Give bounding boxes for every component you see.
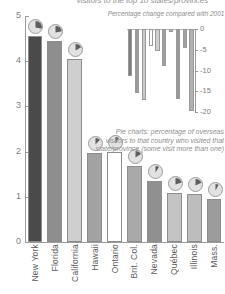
inset-bar[interactable]: [149, 29, 153, 46]
inset-bar[interactable]: [176, 29, 180, 99]
main-bar[interactable]: [107, 152, 122, 242]
inset-bar[interactable]: [189, 29, 193, 111]
inset-y-tick: [195, 71, 198, 72]
main-bar[interactable]: [87, 153, 102, 242]
main-x-label: Florida: [50, 244, 60, 271]
figure-title: visitors to the top 10 states/provinces: [60, 0, 225, 6]
inset-bar[interactable]: [162, 29, 166, 66]
inset-chart: Percentage change compared with 2001 0-5…: [127, 10, 225, 115]
main-bar[interactable]: [127, 166, 142, 242]
pie-chart-icon: [168, 176, 183, 191]
main-x-axis-line: [25, 242, 224, 243]
inset-bar[interactable]: [155, 29, 159, 51]
main-bar[interactable]: [187, 194, 202, 242]
main-bar-item[interactable]: [67, 16, 82, 242]
inset-y-tick: [195, 112, 198, 113]
main-bar-item[interactable]: [47, 16, 62, 242]
main-x-label: Hawaii: [90, 244, 100, 271]
inset-bar[interactable]: [183, 29, 187, 48]
inset-y-tick: [195, 50, 198, 51]
main-bar-item[interactable]: [28, 16, 43, 242]
main-bar[interactable]: [207, 199, 222, 242]
main-bar[interactable]: [67, 59, 82, 242]
main-bar[interactable]: [47, 41, 62, 242]
pie-chart-icon: [68, 42, 83, 57]
inset-y-tick-label: 0: [200, 24, 204, 33]
pie-caption: Pie charts: percentage of overseas visit…: [94, 128, 224, 154]
pie-chart-icon: [208, 182, 223, 197]
main-bar[interactable]: [28, 36, 43, 242]
pie-chart-icon: [148, 164, 163, 179]
inset-y-tick-label: -20: [200, 107, 211, 116]
main-y-tick-label: 1: [2, 191, 21, 201]
figure-root: visitors to the top 10 states/provinces …: [0, 0, 225, 294]
inset-bar-group: [127, 29, 195, 112]
inset-title: Percentage change compared with 2001: [107, 10, 225, 17]
main-x-label: Ontario: [110, 244, 120, 273]
main-x-label: Mass.: [209, 244, 219, 268]
main-y-tick-label: 3: [2, 100, 21, 110]
main-x-label: California: [70, 244, 80, 282]
main-x-label: Québec: [169, 244, 179, 275]
main-bar[interactable]: [167, 193, 182, 242]
main-y-tick-label: 0: [2, 236, 21, 246]
inset-bar[interactable]: [142, 29, 146, 100]
inset-bar[interactable]: [128, 29, 132, 76]
main-y-tick-label: 5: [2, 10, 21, 20]
pie-chart-icon: [48, 24, 63, 39]
inset-y-tick: [195, 91, 198, 92]
inset-bar[interactable]: [135, 29, 139, 93]
main-bar[interactable]: [147, 181, 162, 242]
main-y-tick: [25, 242, 29, 243]
main-x-label-group: New YorkFloridaCaliforniaHawaiiOntarioBr…: [25, 244, 224, 294]
inset-y-tick-label: -15: [200, 86, 211, 95]
main-x-label: Nevada: [149, 244, 159, 275]
inset-y-tick-label: -10: [200, 66, 211, 75]
inset-bar[interactable]: [169, 29, 173, 32]
inset-y-tick-label: -5: [200, 45, 207, 54]
main-x-label: New York: [30, 244, 40, 282]
main-x-label: Illinois: [189, 244, 199, 269]
pie-chart-icon: [188, 177, 203, 192]
inset-y-tick: [195, 29, 198, 30]
main-x-label: Brit. Col.: [129, 244, 139, 279]
pie-chart-icon: [28, 19, 43, 34]
main-y-tick-label: 2: [2, 146, 21, 156]
main-y-tick-label: 4: [2, 55, 21, 65]
